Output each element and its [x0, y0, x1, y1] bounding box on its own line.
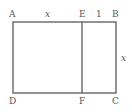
length-label-ae: x	[45, 9, 50, 19]
vertex-label-d: D	[9, 96, 16, 106]
vertex-label-e: E	[79, 9, 86, 19]
vertex-label-f: F	[79, 96, 85, 106]
vertex-label-b: B	[112, 9, 119, 19]
vertex-label-a: A	[8, 9, 16, 19]
length-label-eb: 1	[96, 9, 102, 19]
length-label-bc: x	[121, 53, 126, 63]
geometry-figure: A E B D F C x 1 x	[0, 0, 132, 112]
rectangle-abcd	[13, 22, 116, 93]
vertex-label-c: C	[112, 96, 119, 106]
